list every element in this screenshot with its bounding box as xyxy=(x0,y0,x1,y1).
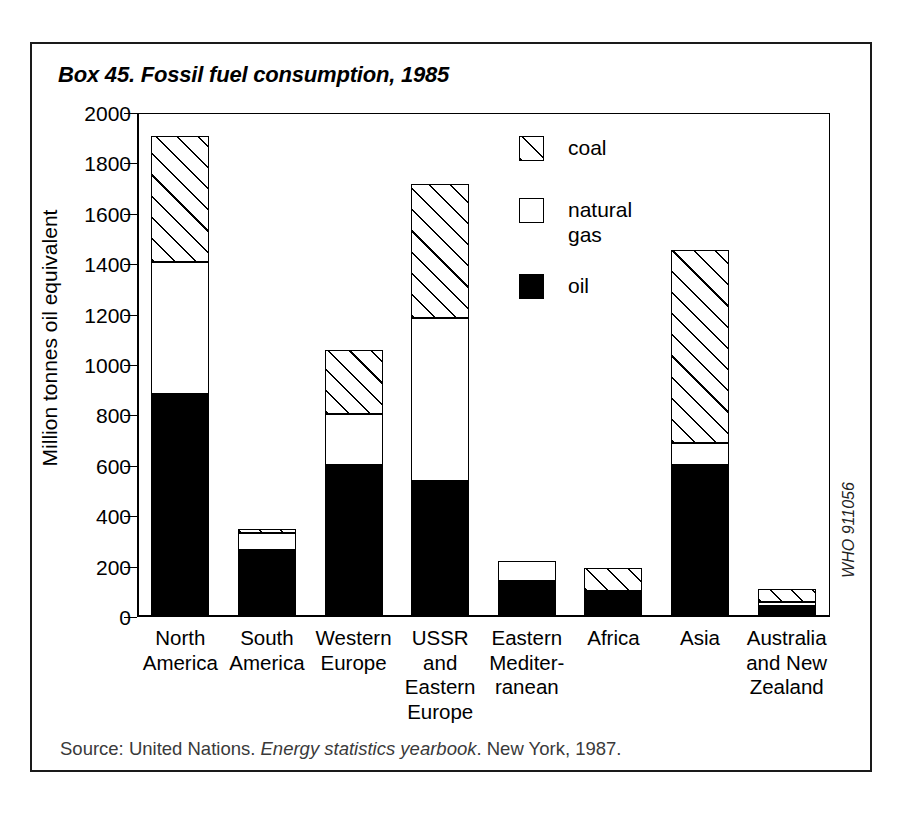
y-tick-label: 600 xyxy=(96,455,131,476)
y-tick-label: 1400 xyxy=(84,254,131,275)
hatch-pattern xyxy=(152,137,208,261)
x-category-label: Australia and New Zealand xyxy=(743,626,830,700)
hatch-pattern xyxy=(326,351,382,413)
x-category-label: USSR and Eastern Europe xyxy=(397,626,484,724)
hatch-pattern xyxy=(585,569,641,590)
bar-segment-oil xyxy=(758,606,816,617)
bar-segment-oil xyxy=(411,481,469,617)
source-note: Source: United Nations. Energy statistic… xyxy=(60,738,621,760)
bar-segment-coal xyxy=(325,350,383,414)
bar-segment-natural-gas xyxy=(325,414,383,464)
figure-container: Box 45. Fossil fuel consumption, 1985 Mi… xyxy=(0,0,912,830)
y-tick-label: 0 xyxy=(119,607,131,628)
bar-segment-natural-gas xyxy=(238,533,296,551)
bar-segment-coal xyxy=(411,184,469,319)
legend-swatch-natural-gas xyxy=(519,198,544,223)
x-category-label: Eastern Mediter- ranean xyxy=(484,626,571,700)
y-tick-label: 1800 xyxy=(84,153,131,174)
legend-item-coal: coal xyxy=(519,136,607,161)
bar-stack xyxy=(325,350,383,617)
bar-segment-coal xyxy=(151,136,209,262)
bar-segment-natural-gas xyxy=(584,591,642,593)
bar-stack xyxy=(584,568,642,617)
hatch-pattern xyxy=(759,590,815,601)
bar-segment-natural-gas xyxy=(498,561,556,581)
y-tick-label: 800 xyxy=(96,405,131,426)
y-tick-label: 1600 xyxy=(84,203,131,224)
plot-area: 0200400600800100012001400160018002000 xyxy=(137,113,830,617)
bar-segment-coal xyxy=(758,589,816,602)
hatch-pattern xyxy=(239,530,295,532)
legend-item-oil: oil xyxy=(519,274,589,299)
x-axis-categories: North AmericaSouth AmericaWestern Europe… xyxy=(137,626,830,736)
bar-stack xyxy=(411,184,469,617)
hatch-pattern xyxy=(672,251,728,442)
bar-segment-natural-gas xyxy=(758,602,816,606)
x-category-label: South America xyxy=(224,626,311,675)
legend-swatch-oil xyxy=(519,274,544,299)
legend-label: oil xyxy=(568,274,589,299)
bar-segment-oil xyxy=(498,581,556,617)
figure-title: Box 45. Fossil fuel consumption, 1985 xyxy=(58,62,449,88)
y-tick-label: 2000 xyxy=(84,103,131,124)
source-suffix: . New York, 1987. xyxy=(476,738,621,759)
bar-stack xyxy=(238,529,296,617)
legend-label: natural gas xyxy=(568,198,632,248)
legend-label: coal xyxy=(568,136,607,161)
y-tick-label: 1000 xyxy=(84,355,131,376)
y-tick-label: 200 xyxy=(96,556,131,577)
who-code-label: WHO 911056 xyxy=(840,482,858,578)
bar-segment-natural-gas xyxy=(411,318,469,481)
bar-segment-oil xyxy=(238,550,296,617)
y-axis-label: Million tonnes oil equivalent xyxy=(38,210,62,467)
bar-segment-oil xyxy=(671,465,729,617)
bar-segment-coal xyxy=(671,250,729,443)
x-category-label: North America xyxy=(137,626,224,675)
y-tick-label: 1200 xyxy=(84,304,131,325)
axis-right xyxy=(829,113,830,617)
x-category-label: Western Europe xyxy=(310,626,397,675)
x-category-label: Asia xyxy=(657,626,744,651)
source-title: Energy statistics yearbook xyxy=(261,738,477,759)
bar-stack xyxy=(671,250,729,617)
bar-segment-natural-gas xyxy=(671,443,729,464)
bar-segment-coal xyxy=(584,568,642,591)
legend-swatch-coal xyxy=(519,136,544,161)
axis-top xyxy=(137,113,830,114)
y-axis-line xyxy=(137,113,139,617)
bar-segment-oil xyxy=(325,465,383,617)
source-prefix: Source: United Nations. xyxy=(60,738,261,759)
legend-item-natural-gas: natural gas xyxy=(519,198,632,248)
bar-segment-natural-gas xyxy=(151,262,209,394)
bar-segment-oil xyxy=(584,593,642,617)
bar-segment-oil xyxy=(151,394,209,617)
hatch-pattern xyxy=(520,137,543,160)
bar-stack xyxy=(151,136,209,617)
hatch-pattern xyxy=(412,185,468,318)
bar-segment-coal xyxy=(238,529,296,533)
bar-stack xyxy=(498,561,556,617)
x-category-label: Africa xyxy=(570,626,657,651)
y-tick-label: 400 xyxy=(96,506,131,527)
bar-stack xyxy=(758,589,816,617)
